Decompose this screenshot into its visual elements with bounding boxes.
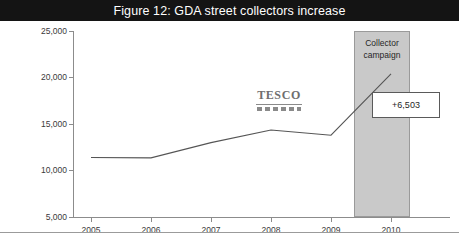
- tesco-underline: [256, 104, 302, 105]
- bottom-divider: [0, 232, 459, 233]
- increase-callout-box: +6,503: [372, 92, 440, 118]
- tesco-dashes-icon: [257, 107, 301, 111]
- tesco-logo-watermark: TESCO: [248, 85, 310, 111]
- tesco-wordmark: TESCO: [257, 88, 301, 102]
- page-title: Figure 12: GDA street collectors increas…: [114, 4, 346, 18]
- increase-callout-value: +6,503: [392, 100, 420, 110]
- chart-plot-area: Collector campaign 25,000 20,000 15,000 …: [0, 21, 459, 232]
- data-series-line: [0, 21, 459, 232]
- figure-title-bar: Figure 12: GDA street collectors increas…: [0, 0, 459, 21]
- figure-container: Figure 12: GDA street collectors increas…: [0, 0, 459, 241]
